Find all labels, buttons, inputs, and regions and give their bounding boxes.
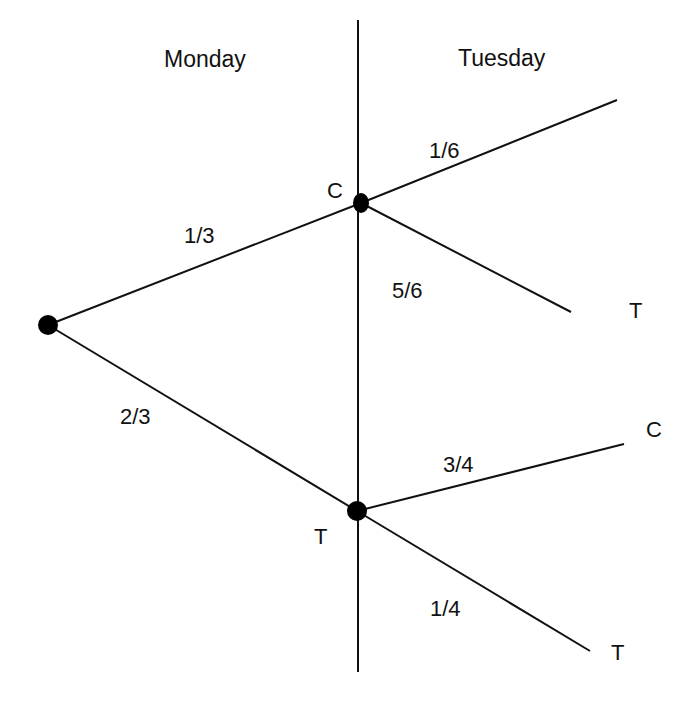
prob-label-3-4: 3/4	[443, 454, 474, 476]
outcome-label-t-lower: T	[611, 642, 624, 664]
root-node	[38, 315, 58, 335]
node-t	[347, 501, 367, 521]
branch-t-to-t	[357, 511, 590, 651]
header-tuesday: Tuesday	[458, 47, 545, 70]
outcome-label-t-upper: T	[629, 300, 642, 322]
branch-root-to-c	[48, 203, 361, 325]
prob-label-5-6: 5/6	[392, 280, 423, 302]
header-monday: Monday	[164, 48, 246, 71]
prob-label-1-6: 1/6	[429, 140, 460, 162]
prob-label-2-3: 2/3	[120, 406, 151, 428]
probability-tree	[0, 0, 686, 703]
prob-label-1-3: 1/3	[184, 225, 215, 247]
node-label-c: C	[327, 180, 343, 202]
branch-t-to-c	[357, 444, 624, 511]
prob-label-1-4: 1/4	[430, 598, 461, 620]
branch-c-to-upper	[361, 100, 617, 203]
outcome-label-c: C	[646, 419, 662, 441]
node-label-t: T	[314, 526, 327, 548]
branch-root-to-t	[48, 325, 357, 511]
node-c	[353, 193, 369, 213]
